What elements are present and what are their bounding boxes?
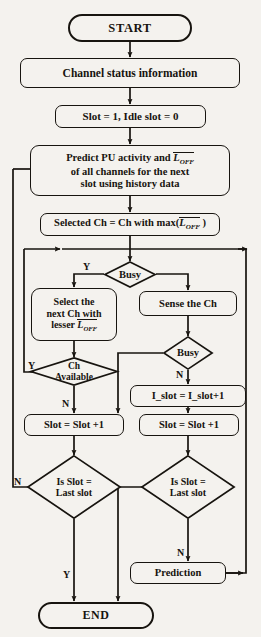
node-predict[interactable]: Predict PU activity and LOFF of all chan… (30, 145, 230, 196)
node-selected-ch[interactable]: Selected Ch = Ch with max(LOFF ) (40, 213, 220, 236)
node-selected-ch-post: ) (200, 217, 206, 228)
node-end[interactable]: END (38, 602, 154, 629)
node-is-last-slot-left-text: Is Slot = Last slot (56, 476, 92, 498)
node-select-next-line1: Select the (54, 296, 95, 307)
flowchart-canvas: START Channel status information Slot = … (0, 0, 261, 637)
node-sense-ch-label: Sense the Ch (140, 298, 236, 310)
node-is-last-slot-right[interactable]: Is Slot = Last slot (141, 455, 235, 519)
node-init-slot-label: Slot = 1, Idle slot = 0 (56, 110, 205, 122)
node-select-next-ch-text: Select the next Ch with lesser LOFF (32, 296, 116, 332)
node-is-last-slot-right-line1: Is Slot = (170, 476, 205, 487)
node-init-slot[interactable]: Slot = 1, Idle slot = 0 (55, 105, 206, 128)
node-is-last-slot-left-line2: Last slot (56, 487, 92, 498)
node-start[interactable]: START (68, 14, 192, 42)
node-slot-increment-right-label: Slot = Slot +1 (140, 419, 238, 431)
node-busy-right-label: Busy (177, 347, 199, 359)
node-ch-available-line2: Available (55, 372, 93, 382)
node-i-slot-increment-label: I_slot = I_slot+1 (131, 390, 245, 402)
node-sense-ch[interactable]: Sense the Ch (139, 291, 237, 316)
node-channel-status-label: Channel status information (21, 67, 239, 80)
edge-busy-top-no (156, 274, 188, 290)
node-prediction[interactable]: Prediction (130, 562, 226, 584)
loff-symbol: LOFF (77, 319, 97, 333)
node-selected-ch-text: Selected Ch = Ch with max(LOFF ) (41, 217, 219, 231)
node-is-last-slot-right-line2: Last slot (170, 487, 206, 498)
node-predict-line3: slot using history data (81, 178, 180, 189)
edge-label-is-last-slot-left-yes: Y (63, 570, 70, 580)
node-predict-text: Predict PU activity and LOFF of all chan… (31, 152, 229, 190)
node-start-label: START (70, 21, 190, 35)
node-busy-top[interactable]: Busy (104, 261, 156, 288)
node-select-next-line3-pre: lesser (51, 319, 77, 330)
node-ch-available-text: Ch Available (55, 361, 93, 382)
node-select-next-ch[interactable]: Select the next Ch with lesser LOFF (31, 288, 117, 341)
edge-busy-top-yes (74, 274, 104, 287)
node-slot-increment-right[interactable]: Slot = Slot +1 (139, 414, 239, 436)
edge-label-busy-right-no: N (176, 370, 183, 380)
node-slot-increment-left[interactable]: Slot = Slot +1 (24, 414, 124, 436)
loff-symbol: LOFF (179, 217, 199, 231)
node-is-last-slot-left-line1: Is Slot = (56, 476, 91, 487)
node-end-label: END (40, 609, 152, 622)
edge-label-busy-top-yes: Y (83, 262, 90, 272)
edge-label-ch-available-no: N (62, 399, 69, 409)
loff-symbol: LOFF (173, 152, 193, 166)
node-slot-increment-left-label: Slot = Slot +1 (25, 419, 123, 431)
node-channel-status[interactable]: Channel status information (20, 58, 240, 88)
node-ch-available[interactable]: Ch Available (30, 357, 118, 386)
node-selected-ch-pre: Selected Ch = Ch with max( (54, 217, 179, 228)
node-is-last-slot-right-text: Is Slot = Last slot (170, 476, 206, 498)
node-busy-right[interactable]: Busy (163, 336, 213, 370)
edge-label-is-last-slot-right-no: N (177, 548, 184, 558)
node-prediction-label: Prediction (131, 567, 225, 579)
node-is-last-slot-left[interactable]: Is Slot = Last slot (27, 455, 121, 519)
node-busy-top-label: Busy (119, 269, 141, 281)
edge-label-is-last-slot-left-no: N (14, 477, 21, 487)
node-predict-line1-pre: Predict PU activity and (66, 152, 173, 163)
node-predict-line2: of all channels for the next (71, 166, 190, 177)
node-select-next-line2: next Ch with (46, 308, 101, 319)
node-ch-available-line1: Ch (68, 361, 80, 371)
edge-label-ch-available-yes: Y (28, 361, 35, 371)
node-i-slot-increment[interactable]: I_slot = I_slot+1 (130, 385, 246, 407)
